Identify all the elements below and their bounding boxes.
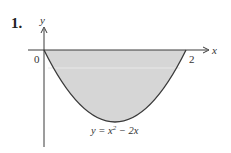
y-axis-label: y	[39, 14, 45, 26]
x-tick-2: 2	[189, 53, 195, 65]
graph: y x 0 2 y = x2 − 2x	[0, 0, 231, 153]
curve-label: y = x2 − 2x	[90, 124, 139, 136]
x-axis-label: x	[211, 44, 217, 56]
origin-label: 0	[34, 53, 40, 65]
